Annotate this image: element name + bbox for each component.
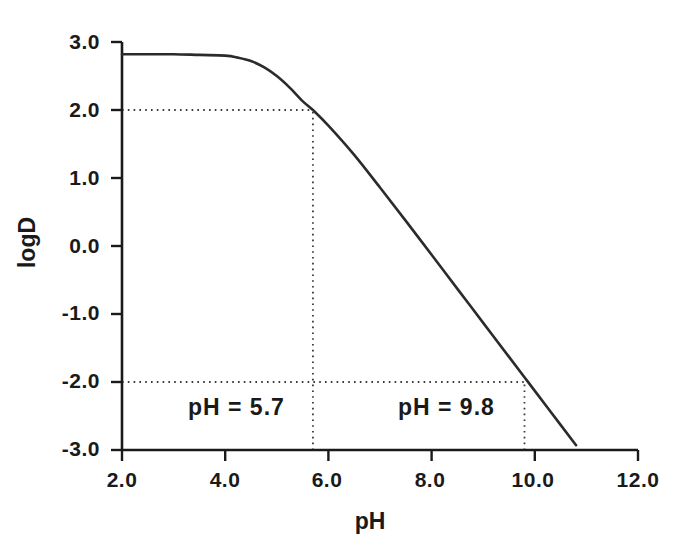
y-tick-label-neg3: -3.0: [28, 437, 100, 461]
curve-group: [122, 54, 576, 445]
y-tick-label-2: 2.0: [28, 98, 100, 122]
x-tick-label-10: 10.0: [493, 468, 573, 492]
annotation-ph-high: pH = 9.8: [398, 394, 495, 421]
y-tick-label-neg2: -2.0: [28, 369, 100, 393]
x-tick-label-6: 6.0: [287, 468, 367, 492]
x-tick-label-2: 2.0: [82, 468, 162, 492]
annotation-ph-low: pH = 5.7: [188, 394, 285, 421]
chart-figure: 3.0 2.0 1.0 0.0 -1.0 -2.0 -3.0 2.0 4.0 6…: [0, 0, 692, 559]
x-tick-label-8: 8.0: [390, 468, 470, 492]
x-tick-label-4: 4.0: [185, 468, 265, 492]
y-tick-label-neg1: -1.0: [28, 301, 100, 325]
y-axis-title: logD: [14, 203, 41, 283]
y-tick-label-1: 1.0: [28, 166, 100, 190]
x-tick-label-12: 12.0: [598, 468, 678, 492]
y-tick-label-3: 3.0: [28, 30, 100, 54]
x-axis-title: pH: [340, 508, 400, 535]
data-curve: [122, 54, 576, 445]
